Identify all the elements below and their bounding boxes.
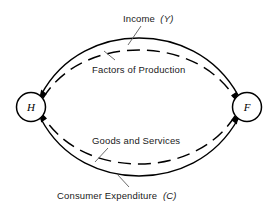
consumer-expenditure-label-paren: (C) <box>163 190 177 201</box>
income-leader-line <box>128 26 141 45</box>
factors-of-production-label-main: Factors of Production <box>92 64 185 75</box>
income-label-paren: (Y) <box>160 13 173 24</box>
goods-and-services-label-main: Goods and Services <box>92 135 180 146</box>
income-label-main: Income <box>123 13 155 24</box>
consumer-expenditure-label: Consumer Expenditure (C) <box>57 190 177 201</box>
consumer-expenditure-label-main: Consumer Expenditure <box>57 190 157 201</box>
goods-and-services-label: Goods and Services <box>92 135 180 146</box>
node-firms[interactable]: F <box>233 93 262 122</box>
node-households[interactable]: H <box>17 93 46 122</box>
circular-flow-diagram: H F Income (Y) Factors of Production Goo… <box>0 0 279 214</box>
consumer-expenditure-arc-path <box>41 119 238 176</box>
firms-label: F <box>243 101 251 113</box>
factors-of-production-label: Factors of Production <box>92 64 185 75</box>
households-label: H <box>26 101 36 113</box>
income-label: Income (Y) <box>123 13 173 24</box>
flow-canvas: H F Income (Y) Factors of Production Goo… <box>0 0 279 214</box>
